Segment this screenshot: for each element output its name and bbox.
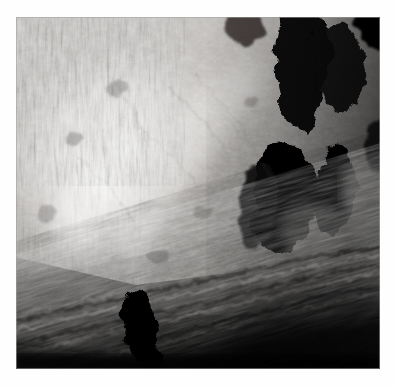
planetary-surface-photo xyxy=(16,17,380,369)
page-background xyxy=(0,0,395,388)
photo-film-grain xyxy=(16,17,380,369)
photo-canvas xyxy=(16,17,380,369)
